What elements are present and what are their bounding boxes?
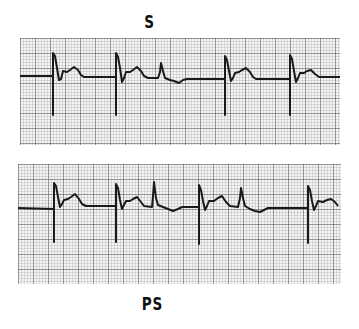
ecg-strip-top bbox=[20, 38, 340, 145]
ecg-trace-bottom bbox=[18, 164, 341, 284]
bottom-strip-label: PS bbox=[142, 294, 163, 314]
ecg-strip-bottom bbox=[18, 164, 341, 284]
ecg-trace-top bbox=[20, 38, 340, 145]
top-strip-label: S bbox=[144, 12, 155, 32]
